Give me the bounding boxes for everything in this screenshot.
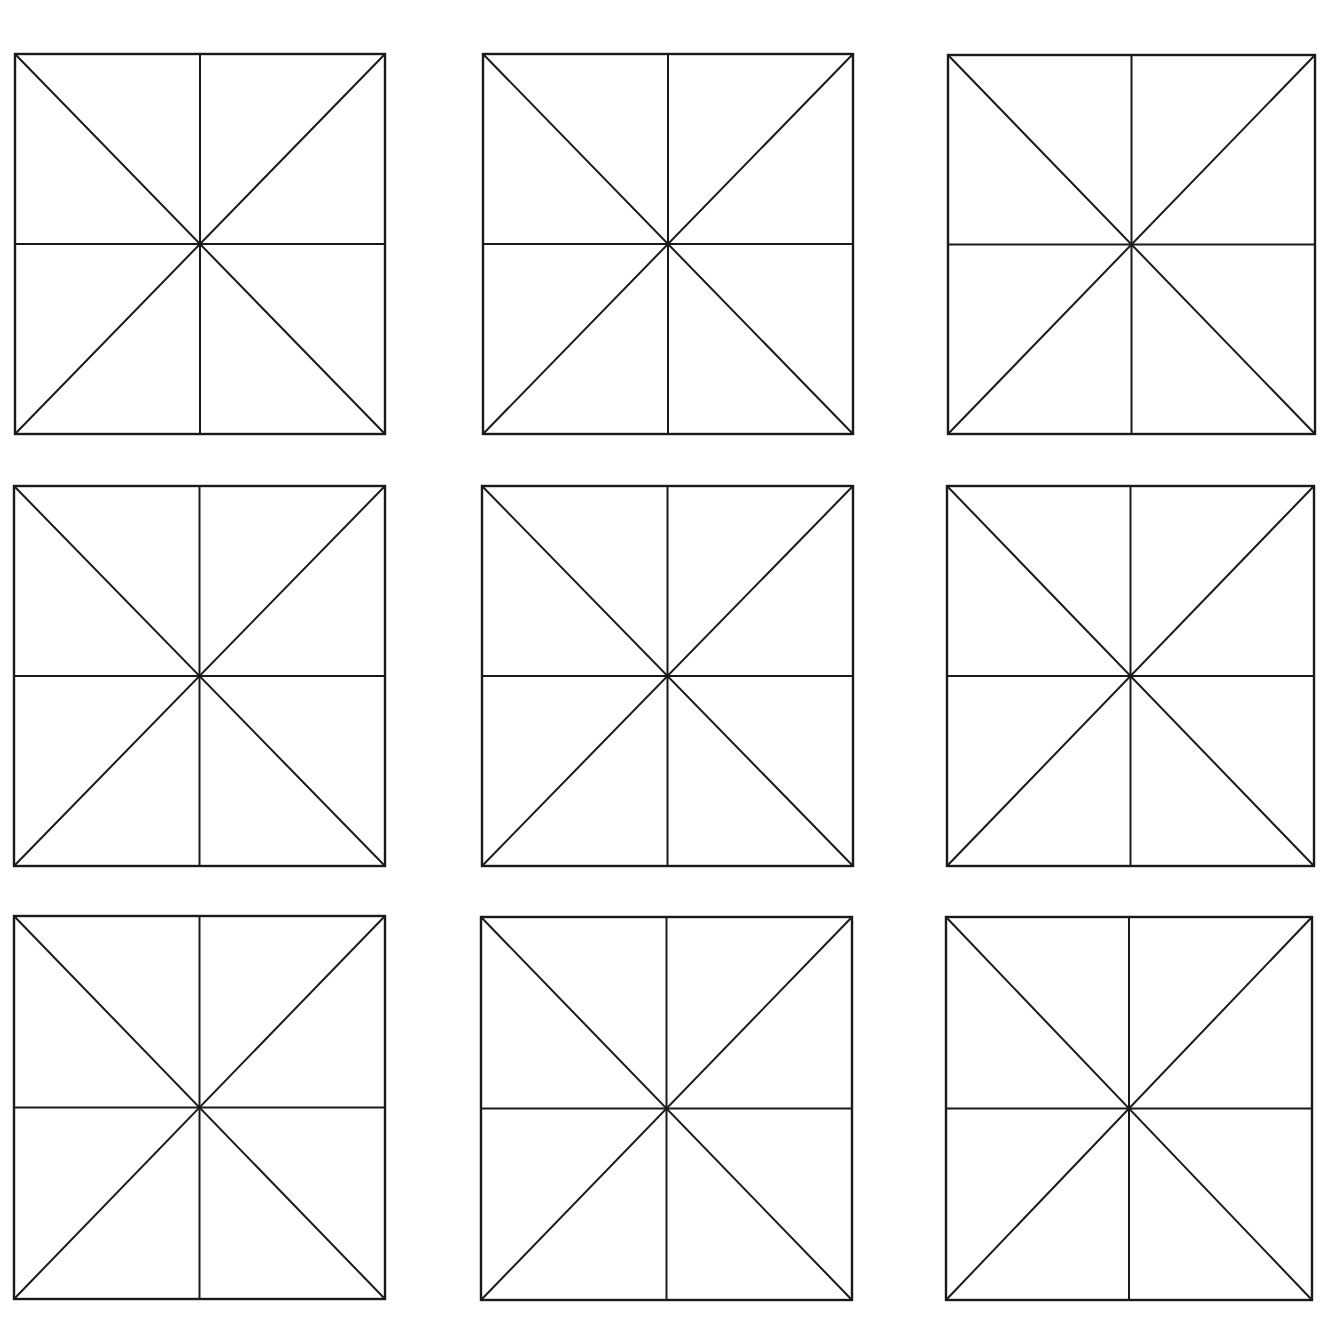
practice-grid-canvas xyxy=(0,0,1324,1323)
grid-cell-r1-c1 xyxy=(15,54,385,434)
grid-cell-r3-c2 xyxy=(481,917,852,1300)
grid-cell-r3-c3 xyxy=(946,917,1312,1300)
grid-cell-r2-c2 xyxy=(482,486,853,866)
grid-cell-r1-c2 xyxy=(483,54,853,434)
grid-cell-r3-c1 xyxy=(14,916,385,1299)
practice-grid xyxy=(14,54,1315,1300)
grid-cell-r2-c1 xyxy=(14,486,385,866)
grid-cell-r1-c3 xyxy=(948,55,1315,434)
grid-cell-r2-c3 xyxy=(947,486,1314,866)
